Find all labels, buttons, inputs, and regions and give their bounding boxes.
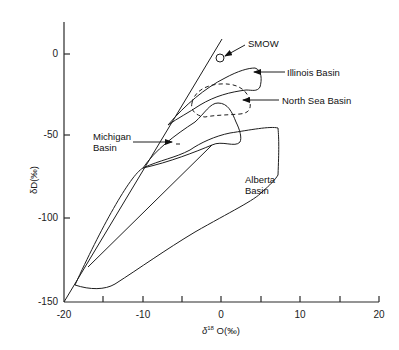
north-sea-basin-region bbox=[192, 84, 251, 117]
svg-text:0: 0 bbox=[218, 309, 224, 320]
x-axis-label: δ18 O(‰) bbox=[202, 325, 240, 336]
y-ticks: 0 -50 -100 -150 bbox=[38, 48, 70, 307]
chart-svg: 0 -50 -100 -150 -20 -10 0 10 20 δ18 O(‰)… bbox=[0, 0, 399, 350]
svg-text:20: 20 bbox=[373, 309, 385, 320]
michigan-label-1: Michigan bbox=[93, 131, 131, 142]
svg-text:-150: -150 bbox=[38, 296, 58, 307]
svg-text:0: 0 bbox=[52, 48, 58, 59]
alberta-inner-line bbox=[88, 145, 212, 267]
north-sea-label: North Sea Basin bbox=[282, 95, 351, 106]
svg-text:-10: -10 bbox=[136, 309, 151, 320]
michigan-basin-region bbox=[143, 103, 241, 168]
alberta-label-2: Basin bbox=[245, 185, 269, 196]
smow-arrow bbox=[225, 45, 245, 56]
isotope-chart: 0 -50 -100 -150 -20 -10 0 10 20 δ18 O(‰)… bbox=[0, 0, 399, 350]
illinois-label: Illinois Basin bbox=[287, 67, 340, 78]
michigan-label-2: Basin bbox=[93, 142, 117, 153]
svg-text:10: 10 bbox=[294, 309, 306, 320]
svg-text:-20: -20 bbox=[57, 309, 72, 320]
smow-point bbox=[216, 54, 224, 62]
svg-text:-50: -50 bbox=[44, 129, 59, 140]
svg-text:-100: -100 bbox=[38, 212, 58, 223]
alberta-label-1: Alberta bbox=[245, 174, 276, 185]
x-ticks: -20 -10 0 10 20 bbox=[57, 296, 385, 320]
meteoric-water-line bbox=[64, 39, 222, 302]
smow-label: SMOW bbox=[248, 38, 279, 49]
illinois-basin-region bbox=[168, 68, 261, 125]
y-axis-label: δD(‰) bbox=[28, 166, 39, 194]
